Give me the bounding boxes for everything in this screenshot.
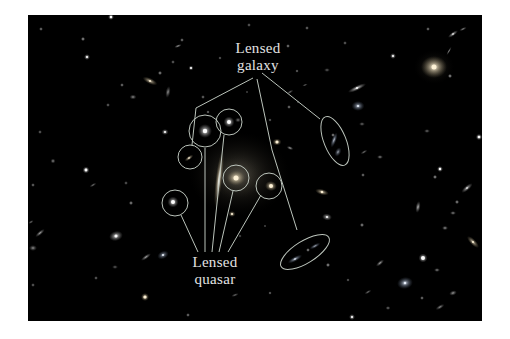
star-blob xyxy=(326,263,330,267)
star-blob xyxy=(171,60,175,64)
bright-core xyxy=(234,176,239,181)
bright-core xyxy=(432,65,437,70)
star-blob xyxy=(426,27,430,31)
star-blob xyxy=(31,183,35,187)
star-blob xyxy=(295,69,299,73)
star-blob xyxy=(286,44,290,48)
bright-core xyxy=(294,258,296,260)
bright-core xyxy=(357,105,359,107)
galaxy-blob xyxy=(450,211,456,215)
star-blob xyxy=(38,130,42,134)
bright-core xyxy=(269,184,273,188)
galaxy-blob xyxy=(359,122,365,126)
bright-core xyxy=(404,282,406,284)
star-blob xyxy=(247,23,251,27)
star-blob xyxy=(186,313,190,317)
star-blob xyxy=(420,296,424,300)
bright-core xyxy=(231,213,233,215)
bright-core xyxy=(466,187,468,189)
bright-core xyxy=(321,191,323,193)
bright-core xyxy=(326,216,328,218)
galaxy-blob xyxy=(442,226,448,230)
star-blob xyxy=(180,38,184,42)
bright-core xyxy=(188,157,190,159)
bright-core xyxy=(478,136,481,139)
star-blob xyxy=(238,234,242,238)
star-blob xyxy=(331,133,335,137)
star-blob xyxy=(120,83,124,87)
star-blob xyxy=(201,95,205,99)
star-blob xyxy=(218,56,222,60)
star-blob xyxy=(287,105,291,109)
star-blob xyxy=(268,118,272,122)
bright-core xyxy=(190,67,192,69)
bright-core xyxy=(472,241,474,243)
bright-core xyxy=(203,129,207,133)
bright-core xyxy=(351,316,353,318)
bright-core xyxy=(439,168,441,170)
star-blob xyxy=(263,224,266,227)
star-blob xyxy=(305,26,309,30)
star-blob xyxy=(346,278,350,282)
bright-core xyxy=(452,33,454,35)
star-blob xyxy=(448,74,452,78)
lensing-figure: Lensed galaxy Lensed quasar xyxy=(0,0,510,339)
star-blob xyxy=(124,181,128,185)
star-blob xyxy=(106,103,110,107)
galaxy-blob xyxy=(112,265,118,269)
star-blob xyxy=(51,159,56,164)
bright-core xyxy=(85,169,88,172)
bright-core xyxy=(164,131,166,133)
galaxy-blob xyxy=(386,306,391,310)
deep-field-photo xyxy=(0,0,510,339)
bright-core xyxy=(421,256,425,260)
bright-core xyxy=(86,56,88,58)
galaxy-blob xyxy=(130,95,137,100)
bright-core xyxy=(227,120,231,124)
star-blob xyxy=(361,173,365,177)
bright-core xyxy=(110,16,112,18)
star-blob xyxy=(246,91,249,94)
galaxy-blob xyxy=(377,155,383,159)
galaxy-blob xyxy=(434,268,440,272)
star-blob xyxy=(158,71,162,75)
bright-core xyxy=(143,295,146,298)
galaxy-blob xyxy=(424,129,430,133)
galaxy-blob xyxy=(324,68,330,72)
star-blob xyxy=(81,37,85,41)
galaxy-blob xyxy=(29,245,37,251)
star-blob xyxy=(129,201,133,205)
bright-core xyxy=(115,235,118,238)
bright-core xyxy=(171,200,175,204)
star-blob xyxy=(94,276,98,280)
star-blob xyxy=(39,27,43,31)
star-blob xyxy=(360,223,364,227)
star-blob xyxy=(433,175,437,179)
star-blob xyxy=(206,110,210,114)
bright-core xyxy=(149,80,151,82)
star-blob xyxy=(455,200,459,204)
star-blob xyxy=(306,248,310,252)
bright-core xyxy=(162,254,164,256)
star-blob xyxy=(268,291,272,295)
star-blob xyxy=(31,283,35,287)
bright-core xyxy=(392,55,394,57)
bright-core xyxy=(356,87,358,89)
star-blob xyxy=(343,41,347,45)
galaxy-blob xyxy=(235,118,241,123)
bright-core xyxy=(276,141,279,144)
